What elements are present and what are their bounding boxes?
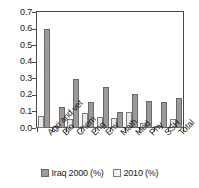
y-axis: 0.00.10.20.30.40.50.60.7 [0,0,36,129]
bar [44,29,50,128]
y-tick-mark [32,78,36,79]
y-tick-mark [32,111,36,112]
bar-group [37,12,52,128]
bar-group [95,12,110,128]
y-tick-mark [32,95,36,96]
y-tick-label: 0.6 [20,24,32,33]
y-tick-label: 0.2 [20,90,32,99]
legend-label: 2010 (%) [124,169,159,178]
y-tick-label: 0.7 [20,8,32,17]
bar-chart: 0.00.10.20.30.40.50.60.7 Agri and vetBio… [0,0,199,188]
bar-group [168,12,183,128]
y-tick-mark [32,45,36,46]
bar-group [81,12,96,128]
bar-group [110,12,125,128]
legend-swatch-icon [113,169,121,177]
bars-layer [37,12,183,128]
bar-group [154,12,169,128]
legend-swatch-icon [41,169,49,177]
bar-group [139,12,154,128]
legend-item[interactable]: 2010 (%) [113,169,159,178]
x-axis-labels: Agri and vetBioChemEngEnvMathMedPhySSHTo… [0,129,199,163]
y-tick-label: 0.1 [20,107,32,116]
y-tick-mark [32,62,36,63]
y-tick-label: 0.4 [20,57,32,66]
y-tick-label: 0.3 [20,74,32,83]
bar-group [125,12,140,128]
y-tick-label: 0.5 [20,41,32,50]
legend-label: Iraq 2000 (%) [52,169,104,178]
legend-item[interactable]: Iraq 2000 (%) [41,169,104,178]
y-tick-mark [32,12,36,13]
y-tick-mark [32,29,36,30]
chart-legend: Iraq 2000 (%)2010 (%) [0,166,199,180]
